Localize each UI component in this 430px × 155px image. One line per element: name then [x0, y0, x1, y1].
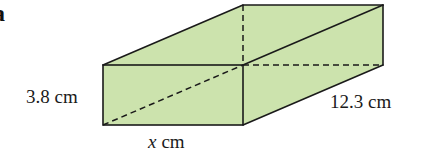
cuboid-diagram: a 3.8 cm 12.3 cm xcm: [0, 0, 430, 155]
height-label: 3.8 cm: [26, 86, 78, 107]
part-label: a: [0, 0, 5, 26]
width-variable: x: [147, 131, 157, 152]
length-label: 12.3 cm: [330, 91, 391, 112]
width-label: xcm: [147, 131, 185, 152]
width-unit: cm: [161, 131, 184, 152]
